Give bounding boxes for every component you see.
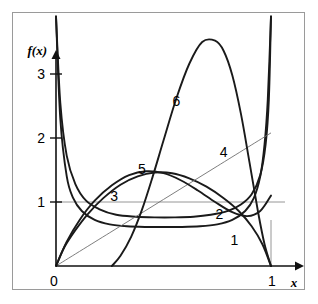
curve-3 <box>56 172 271 266</box>
curve-label-2: 2 <box>216 206 224 222</box>
curve-label-4: 4 <box>220 144 228 160</box>
y-tick-label-3: 3 <box>37 66 45 82</box>
chart-canvas: 12301f(x)x123456 <box>13 13 304 289</box>
y-tick-label-1: 1 <box>37 194 45 210</box>
curve-label-6: 6 <box>173 93 181 109</box>
x-tick-label-1: 1 <box>268 273 276 289</box>
plot-frame: 12301f(x)x123456 <box>12 12 305 290</box>
figure-root: 12301f(x)x123456 <box>0 0 318 304</box>
curve-6 <box>112 39 271 266</box>
y-axis-title: f(x) <box>28 43 48 58</box>
curve-label-5: 5 <box>138 161 146 177</box>
curve-2 <box>56 16 271 217</box>
curve-label-1: 1 <box>231 232 239 248</box>
y-axis-arrow-icon <box>52 50 61 59</box>
curve-label-3: 3 <box>110 188 118 204</box>
x-axis-arrow-icon <box>295 262 304 271</box>
curve-1 <box>56 16 271 227</box>
x-axis-title: x <box>290 275 298 289</box>
curve-4 <box>56 133 271 266</box>
x-tick-label-0: 0 <box>50 273 58 289</box>
y-tick-label-2: 2 <box>37 130 45 146</box>
curve-5 <box>56 171 271 266</box>
